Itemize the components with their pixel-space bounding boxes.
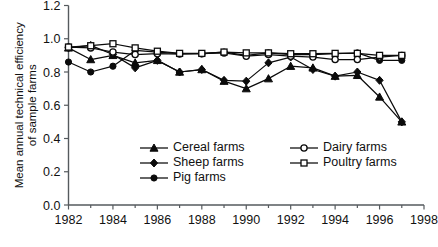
x-tick-label: 1990 bbox=[232, 213, 260, 227]
legend-label: Pig farms bbox=[173, 170, 226, 184]
data-point bbox=[177, 50, 183, 56]
legend-label: Cereal farms bbox=[173, 140, 245, 154]
data-point bbox=[110, 41, 116, 47]
data-point bbox=[154, 48, 160, 54]
data-point bbox=[265, 50, 271, 56]
data-point bbox=[243, 50, 249, 56]
data-point bbox=[332, 50, 338, 56]
x-tick-label: 1986 bbox=[143, 213, 171, 227]
data-point bbox=[199, 50, 205, 56]
y-tick-label: 0.8 bbox=[43, 66, 60, 80]
x-tick-label: 1996 bbox=[366, 213, 394, 227]
chart-background bbox=[0, 0, 438, 247]
data-point bbox=[354, 50, 360, 56]
legend-marker-filled-circle bbox=[151, 175, 157, 181]
y-tick-label: 0.4 bbox=[43, 132, 60, 146]
data-point bbox=[66, 44, 72, 50]
y-tick-label: 0.6 bbox=[43, 99, 60, 113]
y-tick-label: 1.0 bbox=[43, 32, 60, 46]
x-tick-label: 1982 bbox=[55, 213, 83, 227]
legend-marker-open-circle bbox=[301, 145, 307, 151]
data-point bbox=[110, 49, 116, 55]
data-point bbox=[110, 63, 116, 69]
x-tick-label: 1998 bbox=[410, 213, 438, 227]
legend-label: Poultry farms bbox=[323, 155, 397, 169]
legend-label: Dairy farms bbox=[323, 140, 387, 154]
data-point bbox=[221, 49, 227, 55]
x-tick-label: 1994 bbox=[321, 213, 349, 227]
x-tick-label: 1988 bbox=[188, 213, 216, 227]
y-tick-label: 1.2 bbox=[43, 0, 60, 13]
y-axis-title-line2: of sample farms bbox=[26, 64, 38, 146]
chart-container: Mean annual technical efficiencyof sampl… bbox=[0, 0, 438, 247]
data-point bbox=[377, 52, 383, 58]
legend-label: Sheep farms bbox=[173, 155, 244, 169]
y-tick-label: 0.0 bbox=[43, 199, 60, 213]
legend-marker-open-square bbox=[301, 160, 307, 166]
data-point bbox=[132, 45, 138, 51]
data-point bbox=[132, 51, 138, 57]
data-point bbox=[88, 69, 94, 75]
data-point bbox=[65, 59, 71, 65]
data-point bbox=[310, 51, 316, 57]
data-point bbox=[288, 51, 294, 57]
x-tick-label: 1992 bbox=[277, 213, 305, 227]
data-point bbox=[332, 56, 338, 62]
line-chart: Mean annual technical efficiencyof sampl… bbox=[0, 0, 438, 247]
y-axis-title-line1: Mean annual technical efficiency bbox=[13, 22, 25, 188]
data-point bbox=[88, 43, 94, 49]
data-point bbox=[354, 56, 360, 62]
data-point bbox=[399, 52, 405, 58]
x-tick-label: 1984 bbox=[99, 213, 127, 227]
y-tick-label: 0.2 bbox=[43, 165, 60, 179]
